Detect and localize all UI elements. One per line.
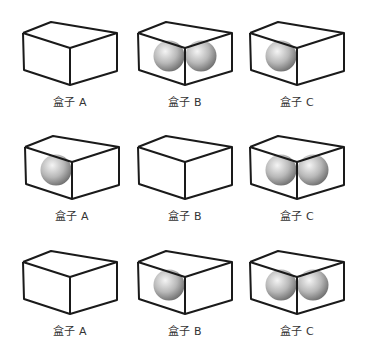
ball-left <box>154 270 185 301</box>
box-top-front-edges <box>250 262 344 277</box>
box-top-front-edges <box>23 262 117 277</box>
box-top-front-edges <box>23 33 117 48</box>
box-label: 盒子 C <box>257 326 337 338</box>
ball-left <box>41 155 72 186</box>
box-top-front-edges <box>25 147 119 162</box>
ball-left <box>266 41 297 72</box>
box-top-front-edges <box>138 33 232 48</box>
box-label: 盒子 A <box>32 211 112 223</box>
ball-right <box>298 155 329 186</box>
box-label: 盒子 B <box>145 211 225 223</box>
box-c-row-3 <box>250 251 344 314</box>
box-a-row-3 <box>23 251 117 314</box>
box-b-row-1 <box>138 22 232 85</box>
ball-right <box>298 270 329 301</box>
box-label: 盒子 A <box>30 326 110 338</box>
box-c-row-2 <box>250 136 344 199</box>
ball-left <box>266 155 297 186</box>
box-top-front-edges <box>138 262 232 277</box>
box-top-front-edges <box>250 147 344 162</box>
box-label: 盒子 A <box>30 97 110 109</box>
box-c-row-1 <box>250 22 344 85</box>
box-label: 盒子 C <box>257 97 337 109</box>
ball-right <box>186 41 217 72</box>
box-ball-diagram: 盒子 A盒子 B盒子 C盒子 A盒子 B盒子 C盒子 A盒子 B盒子 C <box>0 0 367 363</box>
box-label: 盒子 B <box>145 326 225 338</box>
box-a-row-2 <box>25 136 119 199</box>
box-top-front-edges <box>250 33 344 48</box>
box-label: 盒子 C <box>257 211 337 223</box>
box-top-front-edges <box>138 147 232 162</box>
box-a-row-1 <box>23 22 117 85</box>
diagram-canvas <box>0 0 367 363</box>
box-b-row-2 <box>138 136 232 199</box>
box-label: 盒子 B <box>145 97 225 109</box>
ball-left <box>266 270 297 301</box>
box-b-row-3 <box>138 251 232 314</box>
ball-left <box>154 41 185 72</box>
